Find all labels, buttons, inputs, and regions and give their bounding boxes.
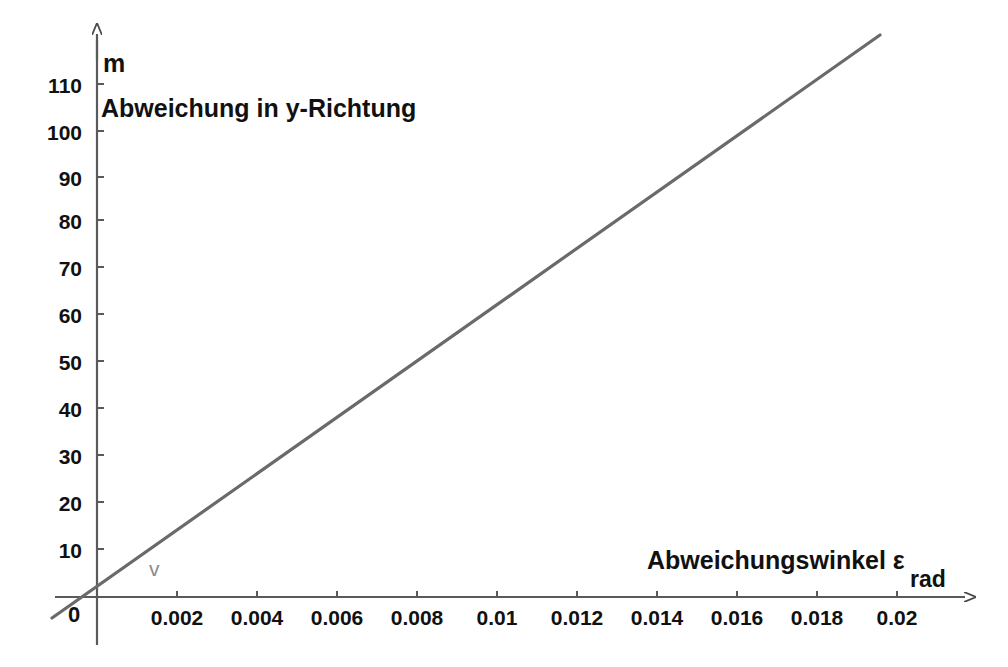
chart-figure: m Abweichung in y-Richtung Abweichungswi…: [0, 0, 1008, 667]
x-tick-label: 0.02: [847, 607, 947, 628]
y-tick-label: 70: [24, 258, 82, 279]
y-axis-unit-label: m: [103, 51, 125, 76]
y-tick-label: 60: [24, 305, 82, 326]
y-tick-label: 50: [24, 352, 82, 373]
x-axis-title: Abweichungswinkel ε: [647, 548, 905, 573]
y-tick-label: 30: [24, 446, 82, 467]
y-axis-title: Abweichung in y-Richtung: [101, 96, 416, 121]
y-tick-label: 40: [24, 399, 82, 420]
x-axis-unit-label: rad: [910, 568, 946, 591]
annotation-v-marker: v: [149, 558, 160, 579]
origin-label: 0: [68, 604, 80, 626]
y-tick-label: 10: [24, 540, 82, 561]
y-tick-label: 20: [24, 493, 82, 514]
y-tick-label: 110: [24, 75, 82, 96]
y-tick-label: 100: [24, 122, 82, 143]
y-tick-label: 80: [24, 211, 82, 232]
data-series-line: [52, 35, 880, 618]
y-tick-label: 90: [24, 168, 82, 189]
